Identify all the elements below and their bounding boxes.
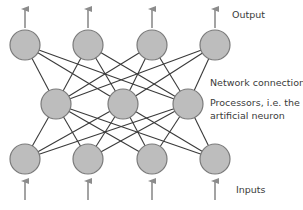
input-neuron (10, 144, 40, 174)
processors-label-line1: Processors, i.e. the (210, 97, 300, 109)
network-connection-line (25, 104, 123, 159)
input-neuron (137, 144, 167, 174)
output-label: Output (232, 9, 265, 21)
output-neuron (200, 30, 230, 60)
input-neuron (200, 144, 230, 174)
output-neuron (73, 30, 103, 60)
inputs-label: Inputs (236, 184, 266, 196)
network-connection-label: Network connection (210, 77, 303, 89)
input-neuron (73, 144, 103, 174)
processors-label-line2: artificial neuron (210, 110, 285, 122)
output-neuron (137, 30, 167, 60)
output-neuron (10, 30, 40, 60)
hidden-neuron (173, 89, 203, 119)
hidden-neuron (41, 89, 71, 119)
hidden-neuron (108, 89, 138, 119)
network-connection-line (25, 45, 123, 104)
